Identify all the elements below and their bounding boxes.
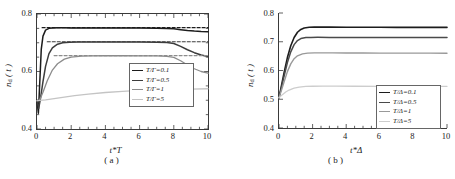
- legend-swatch-line: [379, 92, 390, 93]
- y-tick-label: 0.7: [248, 36, 274, 46]
- x-tick-label: 10: [196, 131, 218, 141]
- caption-b: ( b ): [224, 155, 447, 165]
- legend-item[interactable]: T/Γ=0.5: [132, 76, 190, 86]
- y-tick-label: 0.5: [248, 94, 274, 104]
- legend-swatch-line: [379, 121, 390, 122]
- legend-item[interactable]: T/Δ=0.1: [379, 88, 437, 98]
- x-tick-label: 10: [435, 131, 455, 141]
- x-tick-label: 8: [401, 131, 423, 141]
- caption-a: ( a ): [0, 155, 223, 165]
- legend-item[interactable]: T/Δ=1: [379, 107, 437, 117]
- panel-a: 0.40.60.80246810 nd ( t ) t*T T/Γ=0.1T/Γ…: [0, 0, 223, 179]
- legend-item[interactable]: T/Δ=5: [379, 117, 437, 127]
- x-tick-label: 0: [267, 131, 289, 141]
- x-tick-label: 2: [301, 131, 323, 141]
- legend-item-label: T/Δ=5: [393, 117, 411, 126]
- x-axis-title-b: t*Δ: [350, 145, 362, 155]
- x-tick-label: 0: [25, 131, 47, 141]
- y-tick-label: 0.8: [248, 8, 274, 18]
- y-axis-title-b: nd ( t ): [245, 64, 255, 87]
- legend-item-label: T/Δ=0.1: [393, 88, 416, 97]
- legend-swatch-line: [132, 99, 143, 100]
- legend-a[interactable]: T/Γ=0.1T/Γ=0.5T/Γ=1T/Γ=5: [129, 63, 194, 107]
- legend-item-label: T/Γ=0.5: [146, 76, 169, 85]
- legend-item[interactable]: T/Δ=0.5: [379, 98, 437, 108]
- panel-b: 0.40.50.60.70.80246810 nd ( t ) t*Δ T/Δ=…: [224, 0, 447, 179]
- x-tick-label: 2: [59, 131, 81, 141]
- legend-swatch-line: [379, 111, 390, 112]
- legend-item[interactable]: T/Γ=5: [132, 95, 190, 105]
- y-axis-title-a: nd ( t ): [3, 64, 13, 87]
- legend-item[interactable]: T/Γ=0.1: [132, 66, 190, 76]
- legend-item[interactable]: T/Γ=1: [132, 85, 190, 95]
- legend-b[interactable]: T/Δ=0.1T/Δ=0.5T/Δ=1T/Δ=5: [376, 85, 441, 129]
- legend-swatch-line: [132, 70, 143, 71]
- legend-item-label: T/Δ=1: [393, 107, 411, 116]
- legend-item-label: T/Γ=0.1: [146, 66, 169, 75]
- legend-swatch-line: [132, 89, 143, 90]
- legend-item-label: T/Δ=0.5: [393, 98, 416, 107]
- legend-swatch-line: [379, 102, 390, 103]
- y-tick-label: 0.8: [6, 8, 32, 18]
- legend-swatch-line: [132, 80, 143, 81]
- x-tick-label: 6: [368, 131, 390, 141]
- x-tick-label: 4: [334, 131, 356, 141]
- x-tick-label: 6: [128, 131, 150, 141]
- legend-item-label: T/Γ=1: [146, 85, 164, 94]
- legend-item-label: T/Γ=5: [146, 95, 164, 104]
- x-tick-label: 8: [162, 131, 184, 141]
- x-axis-title-a: t*T: [110, 145, 122, 155]
- x-tick-label: 4: [93, 131, 115, 141]
